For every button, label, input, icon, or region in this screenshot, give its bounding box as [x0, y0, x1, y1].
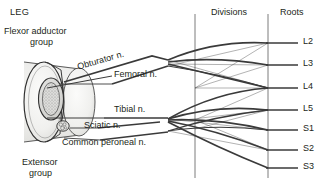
- extensor-group-label-line1: Extensor: [22, 158, 58, 168]
- root-label-L4: L4: [303, 82, 313, 92]
- root-label-S1: S1: [303, 124, 314, 134]
- root-stub-lines: [266, 43, 298, 168]
- branch-L2: [168, 43, 268, 60]
- root-label-S2: S2: [303, 144, 314, 154]
- sciatic-nerve-bundle: [57, 121, 69, 131]
- anatomy-figure: LEG Flexor adductor group Extensor group…: [0, 0, 324, 186]
- femur-bone: [39, 78, 64, 120]
- lumbar-plexus-branches: [168, 43, 268, 88]
- root-label-L2: L2: [303, 37, 313, 47]
- divisions-column-header: Divisions: [211, 8, 247, 18]
- thin-branch-k: [195, 120, 268, 150]
- extensor-group-label-line2: group: [29, 169, 52, 179]
- root-label-L3: L3: [303, 59, 313, 69]
- root-label-L5: L5: [303, 104, 313, 114]
- sciatic-nerve-label: Sciatic n.: [84, 121, 121, 131]
- flexor-adductor-group-label-line2: group: [30, 38, 53, 48]
- femoral-nerve-label: Femoral n.: [114, 70, 157, 80]
- sacral-plexus-branches: [168, 88, 268, 168]
- thin-branch-d: [195, 43, 268, 88]
- common-peroneal-nerve-label: Common peroneal n.: [62, 138, 146, 148]
- roots-column-header: Roots: [280, 8, 304, 18]
- root-label-S3: S3: [303, 162, 314, 172]
- figure-title: LEG: [10, 8, 29, 18]
- flexor-adductor-group-label-line1: Flexor adductor: [4, 27, 67, 37]
- tibial-nerve-label: Tibial n.: [114, 105, 145, 115]
